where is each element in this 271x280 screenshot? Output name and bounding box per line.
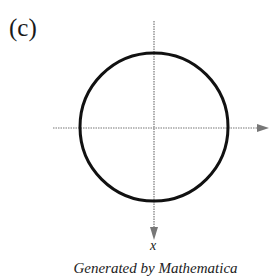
horizontal-axis [53, 124, 269, 132]
axis-label-x: x [150, 239, 156, 253]
arrow-right-icon [257, 124, 269, 132]
circle-diagram [0, 0, 271, 280]
caption: Generated by Mathematica [0, 261, 271, 276]
